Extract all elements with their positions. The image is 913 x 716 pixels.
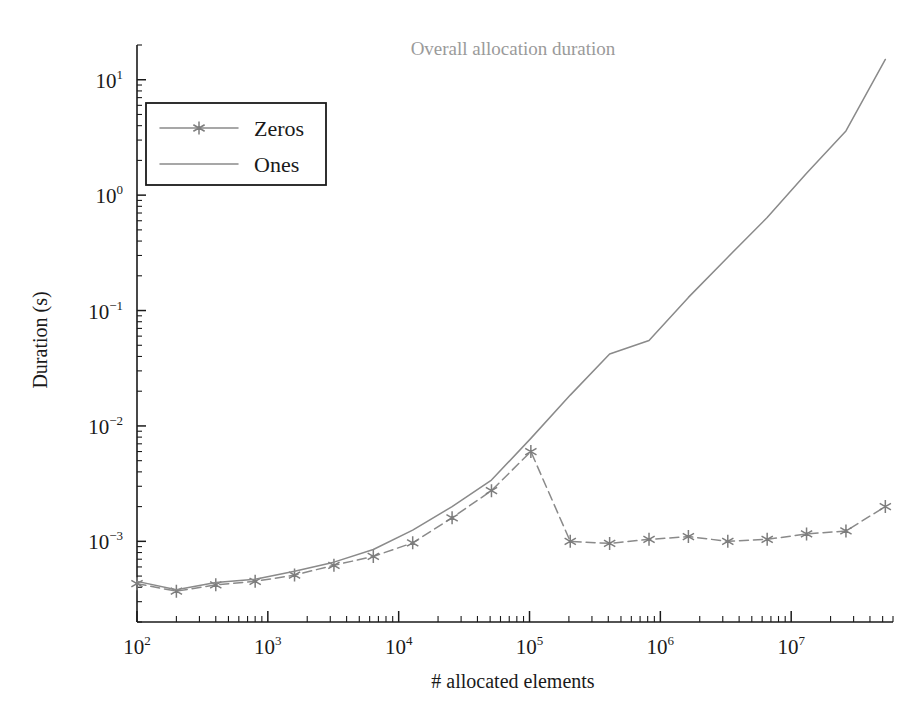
x-axis-major-ticks — [137, 611, 791, 622]
x-axis-tick-labels: 102103104105106107 — [123, 633, 805, 659]
data-point-marker — [407, 536, 418, 549]
y-tick-label-0: 10−3 — [88, 528, 123, 554]
x-tick-label-3: 105 — [516, 633, 544, 659]
series-line-zeros — [137, 452, 885, 592]
y-tick-label-1: 10−2 — [88, 413, 123, 439]
x-axis-label: # allocated elements — [431, 670, 594, 692]
legend-label-zeros: Zeros — [254, 116, 304, 141]
y-tick-label-3: 100 — [96, 182, 124, 208]
data-point-marker — [880, 500, 891, 513]
x-tick-label-0: 102 — [123, 633, 151, 659]
chart-figure: 10−310−210−1100101 102103104105106107 Ov… — [0, 0, 913, 716]
data-point-marker — [368, 550, 379, 563]
y-axis-label: Duration (s) — [29, 291, 52, 388]
chart-title: Overall allocation duration — [411, 38, 616, 59]
data-point-marker — [446, 511, 457, 524]
allocation-duration-chart: 10−310−210−1100101 102103104105106107 Ov… — [0, 0, 913, 716]
x-axis-minor-ticks — [176, 616, 893, 622]
x-tick-label-4: 106 — [647, 633, 675, 659]
x-tick-label-5: 107 — [777, 633, 805, 659]
chart-legend[interactable]: ZerosOnes — [146, 103, 326, 185]
x-tick-label-2: 104 — [385, 633, 413, 659]
x-tick-label-1: 103 — [254, 633, 282, 659]
y-tick-label-2: 10−1 — [88, 298, 123, 324]
y-tick-label-4: 101 — [96, 67, 124, 93]
y-axis-tick-labels: 10−310−210−1100101 — [88, 67, 123, 555]
series-zeros — [131, 445, 891, 598]
legend-label-ones: Ones — [254, 152, 299, 177]
